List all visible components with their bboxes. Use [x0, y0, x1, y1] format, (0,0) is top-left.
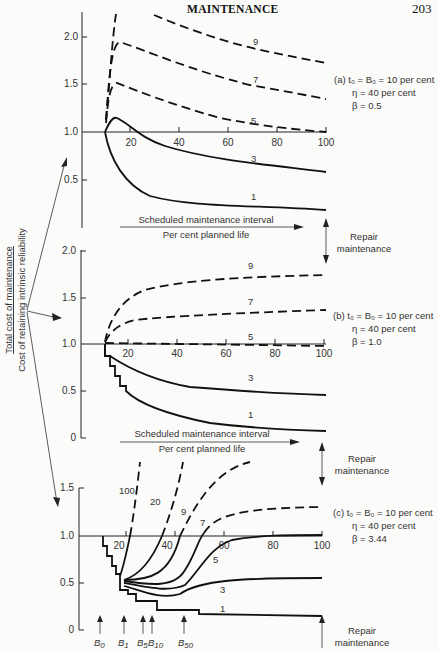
svg-text:40: 40: [173, 137, 185, 148]
curve-label-a-5: 5: [251, 115, 256, 126]
curve-b-3: [105, 344, 326, 395]
marker-b5: B5: [137, 637, 148, 650]
repair-maintenance-marker-3: Repair maintenance: [319, 615, 389, 648]
maintenance-cost-figure: MAINTENANCE 203 Total cost of maintenanc…: [0, 0, 438, 650]
y-ticks-c: 0 0.5 1.0 1.5: [60, 482, 84, 635]
caption-c-line2: η = 40 per cent: [352, 520, 416, 531]
curve-c-9-dash: [180, 462, 250, 536]
svg-text:Scheduled maintenance interval: Scheduled maintenance interval: [138, 214, 273, 225]
curve-label-c-100: 100: [119, 485, 135, 496]
svg-text:1.5: 1.5: [62, 292, 76, 303]
curve-a-9b: [154, 15, 326, 63]
svg-text:Scheduled maintenance interval: Scheduled maintenance interval: [134, 428, 269, 439]
svg-text:2.0: 2.0: [62, 245, 76, 256]
y-axis-denominator: Cost of retaining intrinsic reliability: [16, 228, 27, 372]
caption-a-line3: β = 0.5: [352, 100, 382, 111]
page-header-title: MAINTENANCE: [187, 3, 278, 15]
svg-text:1.0: 1.0: [62, 338, 76, 349]
svg-text:20: 20: [122, 348, 134, 359]
caption-c-line1: (c) t₀ = B₀ = 10 per cent: [333, 507, 433, 518]
curve-label-c-5: 5: [213, 554, 218, 565]
svg-text:1.0: 1.0: [64, 126, 78, 137]
svg-text:Repair: Repair: [348, 453, 376, 464]
caption-b-line1: (b) t₀ = B₀ = 10 per cent: [333, 310, 434, 321]
arrow-right-icon: [294, 224, 304, 230]
curve-a-5: [106, 83, 326, 132]
y-ticks-a: 0.5 1.0 1.5 2.0: [64, 31, 87, 185]
svg-text:100: 100: [318, 137, 335, 148]
svg-text:60: 60: [222, 137, 234, 148]
curve-label-b-9: 9: [248, 260, 253, 271]
arrow-up-icon: [97, 615, 103, 622]
panel-b: 0 0.5 1.0 1.5 2.0 20 40 60 80 100 9 7 5 …: [62, 245, 434, 443]
x-axis-label-2: Scheduled maintenance interval Per cent …: [120, 428, 300, 454]
curve-a-7: [106, 42, 326, 120]
svg-text:1.5: 1.5: [64, 78, 78, 89]
panel-a: 0.5 1.0 1.5 2.0 20 40 60 80 100 9 7 5 3 …: [64, 12, 435, 228]
svg-text:maintenance: maintenance: [335, 465, 389, 476]
svg-text:60: 60: [220, 348, 232, 359]
svg-text:100: 100: [314, 540, 331, 551]
curve-b-7: [105, 310, 326, 342]
curve-label-c-1: 1: [220, 603, 225, 614]
caption-b-line3: β = 1.0: [352, 336, 382, 347]
marker-b1: B1: [118, 637, 129, 650]
curve-label-c-7: 7: [200, 517, 205, 528]
caption-a-line1: (a) t₀ = B₀ = 10 per cent: [334, 74, 435, 85]
x-axis-label-1: Scheduled maintenance interval Per cent …: [120, 214, 304, 240]
curve-label-a-7: 7: [253, 74, 258, 85]
svg-text:0: 0: [68, 624, 74, 635]
page-number: 203: [412, 1, 432, 16]
curve-label-c-9: 9: [181, 506, 186, 517]
arrow-up-icon: [181, 615, 187, 622]
x-ticks-b: 20 40 60 80 100: [122, 339, 332, 359]
caption-c-line3: β = 3.44: [352, 533, 387, 544]
marker-b50: B50: [178, 637, 194, 650]
repair-maintenance-bracket-1: Repair maintenance: [323, 218, 391, 264]
svg-text:0.5: 0.5: [64, 174, 78, 185]
x-ticks-a: 20 40 60 80 100: [125, 127, 334, 148]
curve-label-a-9: 9: [253, 36, 258, 47]
svg-text:Per cent planned life: Per cent planned life: [159, 443, 246, 454]
svg-text:Repair: Repair: [348, 625, 376, 636]
svg-text:100: 100: [316, 348, 333, 359]
svg-text:1.0: 1.0: [60, 530, 74, 541]
svg-text:maintenance: maintenance: [335, 637, 389, 648]
arrow-up-icon: [149, 615, 155, 622]
curve-c-100-dash: [130, 462, 140, 536]
curve-label-b-3: 3: [248, 372, 253, 383]
repair-maintenance-bracket-2: Repair maintenance: [319, 442, 389, 486]
svg-text:0.5: 0.5: [62, 385, 76, 396]
svg-text:80: 80: [267, 540, 279, 551]
svg-text:40: 40: [171, 348, 183, 359]
curve-a-1: [105, 132, 326, 210]
curve-label-a-1: 1: [251, 191, 256, 202]
curve-b-1: [105, 344, 326, 431]
svg-text:80: 80: [269, 348, 281, 359]
curve-label-b-1: 1: [248, 409, 253, 420]
svg-text:1.5: 1.5: [60, 482, 74, 493]
svg-text:maintenance: maintenance: [337, 243, 391, 254]
svg-text:40: 40: [161, 540, 173, 551]
curve-c-7-dash: [204, 507, 322, 533]
svg-text:20: 20: [125, 137, 137, 148]
y-axis-numerator: Total cost of maintenance: [3, 246, 14, 354]
y-axis-label: Total cost of maintenance Cost of retain…: [3, 228, 27, 372]
label-pointer-arrows: [27, 157, 67, 507]
arrow-up-icon: [121, 615, 127, 622]
svg-text:80: 80: [271, 137, 283, 148]
curve-label-a-3: 3: [251, 153, 256, 164]
curve-label-c-3: 3: [220, 584, 225, 595]
svg-text:20: 20: [113, 540, 125, 551]
arrow-up-icon: [61, 157, 67, 167]
curve-label-c-20: 20: [150, 496, 161, 507]
curve-a-3: [105, 118, 326, 172]
panel-c: 0 0.5 1.0 1.5 20 40 60 80 100 100 20: [60, 462, 433, 650]
caption-a-line2: η = 40 per cent: [352, 87, 416, 98]
svg-text:Repair: Repair: [350, 231, 378, 242]
svg-text:2.0: 2.0: [64, 31, 78, 42]
svg-text:0: 0: [70, 432, 76, 443]
marker-b10: B10: [148, 637, 164, 650]
svg-text:0.5: 0.5: [60, 577, 74, 588]
curve-a-9: [106, 14, 116, 120]
